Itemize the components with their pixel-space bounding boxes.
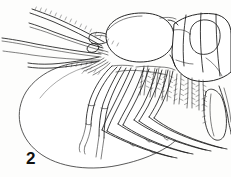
- abdominal-somites: [172, 13, 231, 82]
- antennule-upper: [30, 7, 119, 46]
- figure-panel: 2: [0, 0, 231, 177]
- figure-number-label: 2: [26, 150, 35, 167]
- uropods: [202, 86, 231, 140]
- carapace: [106, 13, 174, 62]
- antenna-flagellum: [2, 38, 101, 60]
